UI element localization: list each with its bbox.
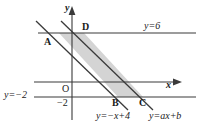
figure-canvas <box>0 0 204 125</box>
equation-label-y-equals-6: y=6 <box>144 21 160 31</box>
y-axis-label: y <box>65 3 69 13</box>
equation-label-y-equals-ax-plus-b: y=ax+b <box>149 111 181 121</box>
equation-label-y-equals-minus-2: y=−2 <box>4 90 27 100</box>
equation-label-y-equals-minus-x-plus-4: y=−x+4 <box>96 111 130 121</box>
point-label-B: B <box>112 98 119 108</box>
y-axis-arrow-icon <box>69 6 76 15</box>
point-label-D: D <box>82 22 89 32</box>
x-axis-arrow-icon <box>173 79 182 86</box>
point-label-A: A <box>44 37 51 47</box>
x-axis-label: x <box>166 80 171 90</box>
y-tick-label-minus-2: −2 <box>57 98 68 108</box>
origin-label: O <box>62 84 69 94</box>
geometry-figure: A B C D y x O −2 y=6 y=−2 y=−x+4 y=ax+b <box>0 0 204 125</box>
point-label-C: C <box>139 98 146 108</box>
